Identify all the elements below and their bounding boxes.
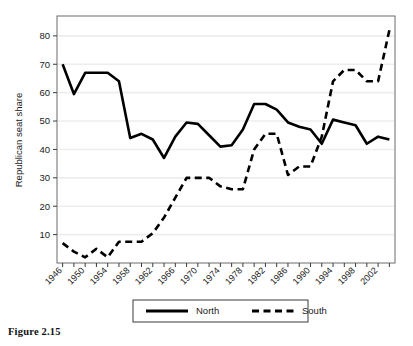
- x-tick-label-1966: 1966: [155, 265, 176, 286]
- x-tick-label-1986: 1986: [268, 265, 289, 286]
- legend-label-south: South: [302, 305, 327, 316]
- x-tick-label-1998: 1998: [336, 265, 357, 286]
- x-tick-label-1950: 1950: [65, 265, 86, 286]
- y-tick-label-70: 70: [39, 59, 50, 70]
- x-tick-label-1970: 1970: [178, 265, 199, 286]
- legend-label-north: North: [196, 305, 219, 316]
- x-tick-label-1994: 1994: [313, 265, 334, 286]
- figure-caption: Figure 2.15: [8, 326, 61, 337]
- x-tick-label-1990: 1990: [291, 265, 312, 286]
- x-tick-label-1978: 1978: [223, 265, 244, 286]
- republican-seat-share-line-chart: 1020304050607080 19461950195419581962196…: [0, 0, 413, 346]
- y-axis-title: Republican seat share: [13, 93, 24, 188]
- y-tick-label-50: 50: [39, 115, 50, 126]
- y-tick-label-60: 60: [39, 87, 50, 98]
- x-tick-label-1946: 1946: [43, 265, 64, 286]
- y-tick-label-30: 30: [39, 172, 50, 183]
- x-tick-label-1974: 1974: [201, 265, 222, 286]
- x-tick-label-1954: 1954: [88, 265, 109, 286]
- x-tick-label-1982: 1982: [246, 265, 267, 286]
- y-tick-label-20: 20: [39, 201, 50, 212]
- y-axis-ticks-group: 1020304050607080: [39, 30, 57, 240]
- x-tick-label-2002: 2002: [358, 265, 379, 286]
- x-axis-tick-labels-group: 1946195019541958196219661970197419781982…: [43, 265, 380, 286]
- x-tick-label-1958: 1958: [110, 265, 131, 286]
- y-tick-label-10: 10: [39, 229, 50, 240]
- x-axis-ticks-group: [63, 263, 390, 267]
- figure-container: 1020304050607080 19461950195419581962196…: [0, 0, 413, 346]
- y-tick-label-80: 80: [39, 30, 50, 41]
- x-tick-label-1962: 1962: [133, 265, 154, 286]
- plot-area-frame: [57, 16, 395, 263]
- y-tick-label-40: 40: [39, 144, 50, 155]
